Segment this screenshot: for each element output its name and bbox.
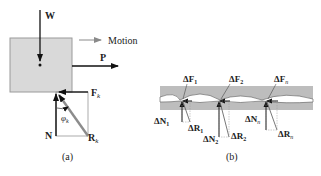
friction-angle-label: φk [61,113,69,124]
resultant-force-label: Rk [88,132,99,145]
delta-f2-label: ΔF2 [229,74,243,85]
weight-label: W [45,10,55,21]
friction-diagram: W Motion P Fk N Rk φk (a) [0,0,321,176]
delta-n2-label: ΔN2 [203,134,218,145]
delta-rn-label: ΔRn [278,129,293,140]
motion-label: Motion [108,35,137,46]
applied-force-label: P [100,52,106,63]
delta-n1-label: ΔN1 [154,116,169,127]
delta-r2-label: ΔR2 [231,131,246,142]
friction-force-label: Fk [91,87,101,100]
delta-fn-label: ΔFn [274,74,288,85]
panel-b: ΔF1 ΔF2 ΔFn ΔN1 ΔR1 ΔN2 ΔR2 ΔNn ΔRn (b) [154,74,313,163]
normal-force-label: N [45,130,53,141]
panel-a-caption: (a) [62,151,73,163]
center-of-gravity-dot [39,64,42,67]
panel-b-caption: (b) [226,151,238,163]
panel-a: W Motion P Fk N Rk φk (a) [10,10,137,163]
delta-f1-label: ΔF1 [183,74,197,85]
delta-nn-label: ΔNn [245,114,260,125]
delta-r1-label: ΔR1 [188,123,203,134]
